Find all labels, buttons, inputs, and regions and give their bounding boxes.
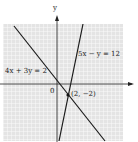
y-axis-arrow-icon: [55, 15, 59, 21]
x-axis-arrow-icon: [128, 82, 134, 86]
equation-label-4x-3y: 4x + 3y = 2: [5, 68, 47, 75]
intersection-label: (2, −2): [71, 91, 96, 98]
equation-label-5x-y: 5x − y = 12: [78, 51, 120, 58]
origin-label: 0: [50, 88, 54, 95]
y-axis-label: y: [53, 5, 57, 12]
intersection-point: [66, 93, 69, 96]
